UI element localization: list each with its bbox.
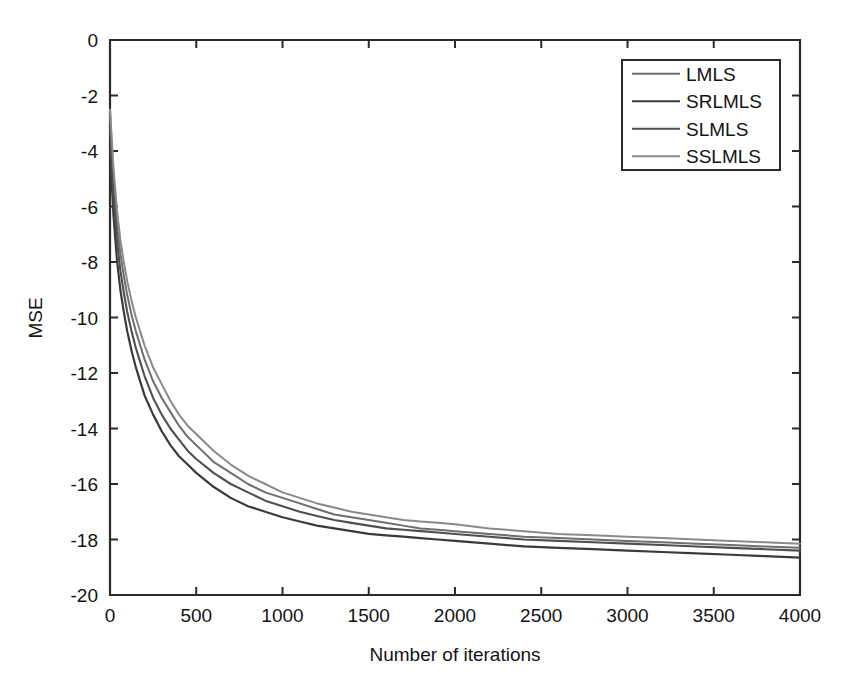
y-tick-label: -10 [71,308,98,329]
y-axis-title: MSE [25,297,46,338]
legend-label-srlmls: SRLMLS [686,91,762,112]
y-tick-label: -2 [81,86,98,107]
x-tick-label: 1500 [348,605,390,626]
y-tick-label: -8 [81,252,98,273]
y-tick-label: 0 [87,30,98,51]
y-tick-label: -6 [81,197,98,218]
x-tick-label: 2000 [434,605,476,626]
x-tick-label: 2500 [520,605,562,626]
x-tick-label: 4000 [779,605,821,626]
x-tick-label: 0 [105,605,116,626]
x-tick-label: 1000 [261,605,303,626]
mse-convergence-chart: 05001000150020002500300035004000 0-2-4-6… [0,0,847,692]
y-tick-label: -14 [71,419,99,440]
x-tick-label: 500 [180,605,212,626]
figure-container: 05001000150020002500300035004000 0-2-4-6… [0,0,847,692]
x-tick-label: 3500 [693,605,735,626]
y-tick-label: -20 [71,585,98,606]
y-tick-label: -16 [71,474,98,495]
y-tick-label: -4 [81,141,98,162]
chart-legend: LMLSSRLMLSSLMLSSSLMLS [622,60,780,170]
y-tick-label: -18 [71,530,98,551]
legend-label-lmls: LMLS [686,64,736,85]
x-tick-label: 3000 [606,605,648,626]
legend-label-sslmls: SSLMLS [686,146,761,167]
y-tick-label: -12 [71,363,98,384]
x-axis-title: Number of iterations [369,644,540,665]
legend-label-slmls: SLMLS [686,119,748,140]
